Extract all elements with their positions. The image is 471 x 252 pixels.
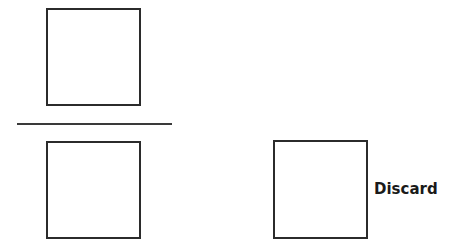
card-slot-top[interactable] <box>46 8 141 106</box>
card-slot-bottom[interactable] <box>46 141 141 239</box>
discard-slot[interactable] <box>273 140 368 239</box>
discard-label: Discard <box>374 180 438 198</box>
fraction-divider <box>17 123 172 125</box>
